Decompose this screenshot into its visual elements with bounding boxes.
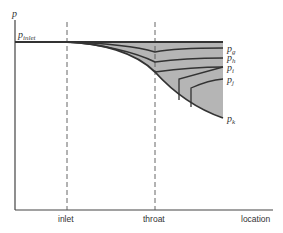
curve-label-k: pk <box>226 113 236 126</box>
x-label-inlet: inlet <box>58 214 74 224</box>
inlet-pressure-label: pinlet <box>17 29 36 42</box>
nozzle-pressure-diagram: p pinlet pg ph pi pj pk inlet throat loc… <box>0 0 283 233</box>
y-axis-label: p <box>11 8 17 19</box>
curve-label-j: pj <box>226 74 234 87</box>
x-label-throat: throat <box>143 214 165 224</box>
x-label-location: location <box>241 214 271 224</box>
